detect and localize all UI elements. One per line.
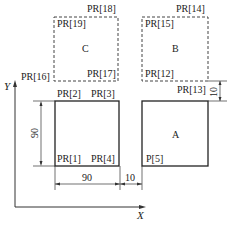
point-pr1: PR[1] — [57, 153, 81, 164]
point-pr16: PR[16] — [21, 71, 50, 82]
point-pr17: PR[17] — [87, 68, 116, 79]
dimension-gap-y-label: 10 — [208, 87, 219, 97]
point-pr15: PR[15] — [145, 18, 174, 29]
point-pr2: PR[2] — [57, 88, 81, 99]
point-pr13: PR[13] — [177, 84, 206, 95]
x-axis-label: X — [136, 209, 145, 221]
region-origin-square: PR[2] PR[3] PR[1] PR[4] — [55, 88, 119, 166]
region-a-label: A — [172, 129, 180, 140]
region-b-label: B — [172, 43, 179, 54]
region-b: B PR[14] PR[15] PR[12] PR[13] — [142, 3, 208, 95]
point-pr14: PR[14] — [176, 3, 205, 14]
point-p5: P[5] — [146, 153, 163, 164]
dimension-gap-x-label: 10 — [125, 172, 135, 183]
dimension-width: 90 10 — [55, 166, 142, 190]
point-pr3: PR[3] — [91, 88, 115, 99]
dimension-height: 90 — [29, 101, 55, 166]
arrow-right-icon — [115, 183, 120, 186]
arrow-right-icon — [137, 183, 142, 186]
arrow-left-icon — [55, 183, 60, 186]
point-pr4: PR[4] — [91, 153, 115, 164]
region-a: A P[5] — [142, 101, 208, 166]
arrow-down-icon — [40, 161, 43, 166]
region-c-label: C — [82, 43, 89, 54]
y-axis-arrow-icon — [13, 80, 17, 87]
arrow-up-icon — [219, 81, 222, 85]
arrow-up-icon — [40, 101, 43, 106]
dimension-width-label: 90 — [82, 172, 92, 183]
y-axis-label: Y — [4, 80, 12, 92]
point-pr19: PR[19] — [57, 18, 86, 29]
region-c: C PR[18] PR[19] PR[17] PR[16] — [21, 3, 118, 82]
point-pr12: PR[12] — [145, 68, 174, 79]
dimension-height-label: 90 — [29, 128, 40, 138]
dimension-gap-y: 10 — [208, 81, 227, 101]
diagram-canvas: Y X C PR[18] PR[19] PR[17] PR[16] B PR[1… — [0, 0, 227, 228]
point-pr18: PR[18] — [87, 3, 116, 14]
